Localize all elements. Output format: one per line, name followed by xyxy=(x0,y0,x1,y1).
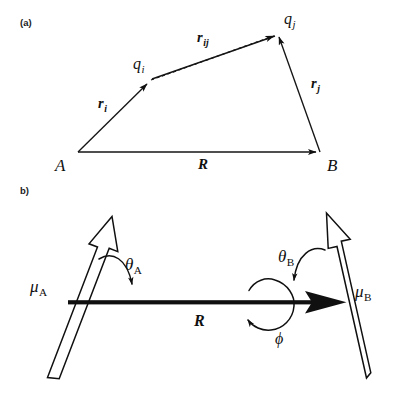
label-R-panel-b: R xyxy=(193,312,205,329)
phi-rotation-arrow xyxy=(248,279,294,330)
vector-label-r-j: rj xyxy=(311,75,320,94)
dipole-A xyxy=(48,217,118,379)
theta-B-curved-arrow xyxy=(294,249,325,280)
dipole-A-hollow-arrow xyxy=(48,217,118,379)
label-theta-A: θA xyxy=(125,255,143,276)
vector-r-j-arrow xyxy=(279,37,320,152)
charge-label-q-j: qj xyxy=(284,10,296,30)
panel-b-letter: b) xyxy=(20,185,29,196)
physics-diagram: (a) A B qi qj ri rj rij R xyxy=(0,0,404,401)
charge-label-q-i: qi xyxy=(133,55,145,75)
panel-a: (a) A B qi qj ri rj rij R xyxy=(20,10,338,175)
label-mu-B: μB xyxy=(354,282,372,303)
label-phi: ϕ xyxy=(275,330,283,348)
vector-r-i-arrow xyxy=(78,84,147,152)
panel-b: b) μA μB θA xyxy=(20,185,372,379)
vertex-label-B: B xyxy=(327,156,338,175)
figure-root: (a) A B qi qj ri rj rij R xyxy=(0,0,404,401)
vector-r-ij-arrowhead xyxy=(266,36,274,39)
vector-R-shaft-panel-b xyxy=(68,300,313,304)
separation-vector-R xyxy=(68,291,347,314)
panel-a-letter: (a) xyxy=(20,17,32,28)
label-mu-A: μA xyxy=(29,277,48,298)
vector-label-r-i: ri xyxy=(98,95,107,114)
vertex-label-A: A xyxy=(54,156,66,175)
label-theta-B: θB xyxy=(278,247,294,268)
vector-label-R-panel-a: R xyxy=(197,156,208,172)
vector-label-r-ij: rij xyxy=(197,29,209,48)
